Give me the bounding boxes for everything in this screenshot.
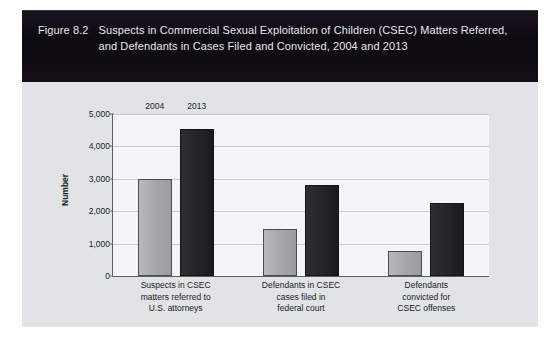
category-label-line: federal court: [238, 303, 363, 315]
category-label-line: U.S. attorneys: [113, 303, 238, 315]
figure-title: Suspects in Commercial Sexual Exploitati…: [99, 23, 519, 54]
category-label-line: cases filed in: [238, 292, 363, 304]
y-axis-tick-labels: 01,0002,0003,0004,0005,000: [74, 114, 110, 276]
plot-area: 20042013: [112, 114, 489, 277]
x-axis-category-label: Suspects in CSECmatters referred toU.S. …: [113, 280, 238, 315]
figure-title-row: Figure 8.2 Suspects in Commercial Sexual…: [38, 23, 528, 54]
bar-group: 20042013: [113, 114, 238, 276]
bars-layer: 20042013: [113, 114, 489, 276]
x-axis-category-label: Defendantsconvicted forCSEC offenses: [364, 280, 489, 315]
bar-2004[interactable]: 2004: [138, 179, 172, 276]
bar-wrapper: [388, 114, 422, 276]
bar-wrapper: [305, 114, 339, 276]
x-axis-category-labels: Suspects in CSECmatters referred toU.S. …: [113, 280, 489, 315]
bar-series-label: 2004: [145, 101, 164, 111]
bar-wrapper: [263, 114, 297, 276]
bar-2013[interactable]: [305, 185, 339, 276]
bar-2013[interactable]: [430, 203, 464, 276]
figure-card: Figure 8.2 Suspects in Commercial Sexual…: [22, 10, 538, 327]
figure-number: Figure 8.2: [38, 23, 89, 39]
bar-series-label: 2013: [187, 101, 206, 111]
y-axis-tick-label: 3,000: [74, 174, 110, 184]
bar-wrapper: 2004: [138, 114, 172, 276]
bar-group: [238, 114, 363, 276]
category-label-line: convicted for: [364, 292, 489, 304]
category-label-line: Defendants: [364, 280, 489, 292]
chart-region: Number 01,0002,0003,0004,0005,000 200420…: [22, 82, 538, 327]
category-label-line: Suspects in CSEC: [113, 280, 238, 292]
y-axis-tick-label: 5,000: [74, 109, 110, 119]
y-axis-title: Number: [60, 192, 70, 206]
bar-2004[interactable]: [388, 251, 422, 276]
figure-title-band: Figure 8.2 Suspects in Commercial Sexual…: [22, 10, 538, 82]
bar-2013[interactable]: 2013: [180, 129, 214, 276]
bar-2004[interactable]: [263, 229, 297, 276]
y-axis-tick-label: 1,000: [74, 239, 110, 249]
category-label-line: matters referred to: [113, 292, 238, 304]
bar-wrapper: 2013: [180, 114, 214, 276]
y-axis-tick-label: 0: [74, 271, 110, 281]
y-axis-tick-label: 4,000: [74, 141, 110, 151]
x-axis-category-label: Defendants in CSECcases filed infederal …: [238, 280, 363, 315]
category-label-line: CSEC offenses: [364, 303, 489, 315]
bar-group: [364, 114, 489, 276]
y-axis-tick-label: 2,000: [74, 206, 110, 216]
bar-wrapper: [430, 114, 464, 276]
category-label-line: Defendants in CSEC: [238, 280, 363, 292]
